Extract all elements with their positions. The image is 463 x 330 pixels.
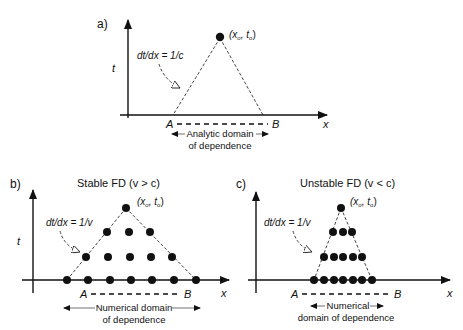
- grid-points: [63, 204, 200, 284]
- domain-of-dependence-figure: a) t x (xo, to) dt/dx = 1/c A B Analytic…: [0, 0, 463, 330]
- slope-label: dt/dx = 1/v: [46, 217, 93, 228]
- right-characteristic-line: [126, 208, 196, 280]
- panel-a-label: a): [97, 17, 108, 31]
- domain-label-line2: of dependence: [189, 140, 252, 151]
- panel-b-label: b): [10, 177, 21, 191]
- right-characteristic-line: [341, 208, 372, 280]
- panel-c-label: c): [236, 177, 246, 191]
- panel-b: b) Stable FD (v > c) t x (xo, to) dt/dx …: [10, 177, 229, 325]
- right-characteristic-line: [220, 38, 263, 115]
- slope-pointer-arrow-icon: [60, 231, 80, 252]
- endpoint-a: A: [79, 288, 87, 300]
- apex-point: [216, 33, 224, 41]
- x-axis-label: x: [220, 287, 227, 299]
- apex-point-label: (xo, to): [229, 29, 256, 41]
- panel-a: a) t x (xo, to) dt/dx = 1/c A B Analytic…: [97, 17, 329, 151]
- t-axis-label: t: [17, 235, 21, 247]
- t-axis-label: t: [112, 62, 116, 74]
- x-axis-label: x: [446, 287, 453, 299]
- grid-points: [310, 204, 376, 284]
- apex-point: [122, 204, 130, 212]
- slope-pointer-arrow-icon: [159, 64, 180, 88]
- left-characteristic-line: [314, 208, 341, 280]
- apex-point-label: (xo, to): [350, 196, 377, 208]
- domain-label-line2: domain of dependence: [298, 312, 395, 323]
- endpoint-b: B: [184, 288, 191, 300]
- domain-label-line2: of dependence: [103, 314, 166, 325]
- panel-b-title: Stable FD (v > c): [77, 177, 160, 189]
- endpoint-b: B: [272, 118, 279, 130]
- slope-label: dt/dx = 1/c: [137, 50, 183, 61]
- x-axis-label: x: [322, 118, 329, 130]
- panel-c-title: Unstable FD (v < c): [300, 177, 395, 189]
- slope-pointer-arrow-icon: [293, 231, 312, 252]
- panel-c: c) Unstable FD (v < c) x (xo, to) dt/dx …: [236, 177, 453, 323]
- endpoint-b: B: [394, 288, 401, 300]
- endpoint-a: A: [290, 288, 298, 300]
- domain-label-line1: Numerical domain: [96, 302, 173, 313]
- domain-label-line1: Numerical: [327, 300, 370, 311]
- apex-point-label: (xo, to): [137, 196, 164, 208]
- apex-point: [337, 204, 345, 212]
- domain-label-line1: Analytic domain: [186, 128, 253, 139]
- slope-label: dt/dx = 1/v: [264, 217, 311, 228]
- endpoint-a: A: [165, 118, 173, 130]
